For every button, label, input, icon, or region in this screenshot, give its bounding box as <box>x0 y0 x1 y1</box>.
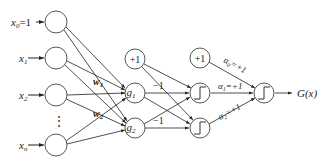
bias-label-1: +1 <box>130 54 141 65</box>
input-label-x1: x1 <box>18 52 27 66</box>
input-node-x0 <box>45 11 67 33</box>
input-arrows <box>28 22 44 145</box>
hidden-to-threshold-edges <box>142 64 193 128</box>
ellipsis: ⋮ <box>53 114 65 128</box>
input-node-x1 <box>45 47 67 69</box>
input-node-x2 <box>45 84 67 106</box>
edge-label-minus1-top: −1 <box>153 80 164 91</box>
input-label-x2: x2 <box>18 89 28 103</box>
alpha0-label: α0=+1 <box>222 55 249 76</box>
weight-label-w2: w2 <box>93 108 104 121</box>
input-label-x0: x0=1 <box>10 16 31 30</box>
neural-network-diagram: x0=1 x1 x2 xn ⋮ w1 w2 −1 −1 α0=+1 α1=+1 <box>0 0 328 164</box>
bias-label-2: +1 <box>195 53 206 64</box>
input-node-xn <box>45 134 67 156</box>
output-label: G(x) <box>297 87 317 100</box>
input-nodes <box>45 11 67 156</box>
alpha1-label: α1=+1 <box>218 81 242 92</box>
edge-label-minus1-bottom: −1 <box>153 115 164 126</box>
input-label-xn: xn <box>18 139 28 153</box>
input-labels: x0=1 x1 x2 xn <box>10 16 31 153</box>
alpha2-label: α2=+1 <box>216 101 243 122</box>
